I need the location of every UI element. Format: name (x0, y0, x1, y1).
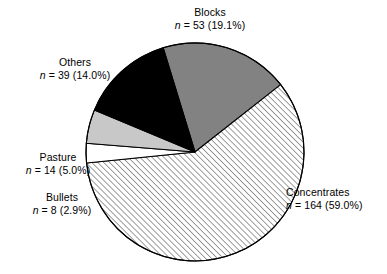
pie-label-bullets-name: Bullets (6, 191, 118, 204)
pie-label-blocks: Blocks n = 53 (19.1%) (148, 6, 272, 32)
pie-label-concentrates: Concentrates n = 164 (59.0%) (286, 186, 387, 212)
pie-label-concentrates-stat: n = 164 (59.0%) (286, 199, 387, 212)
pie-label-blocks-name: Blocks (148, 6, 272, 19)
pie-label-blocks-stat-rest: = 53 (19.1%) (181, 19, 246, 31)
pie-label-others-name: Others (16, 56, 134, 69)
pie-label-others: Others n = 39 (14.0%) (16, 56, 134, 82)
pie-label-others-stat: n = 39 (14.0%) (16, 69, 134, 82)
pie-label-bullets-stat-rest: = 8 (2.9%) (39, 204, 92, 216)
pie-label-pasture: Pasture n = 14 (5.0%) (2, 151, 114, 177)
pie-chart-figure: Blocks n = 53 (19.1%) Others n = 39 (14.… (0, 0, 387, 274)
pie-label-bullets: Bullets n = 8 (2.9%) (6, 191, 118, 217)
pie-label-pasture-stat: n = 14 (5.0%) (2, 164, 114, 177)
pie-label-concentrates-name: Concentrates (286, 186, 387, 199)
pie-label-concentrates-stat-rest: = 164 (59.0%) (292, 199, 363, 211)
pie-label-bullets-stat: n = 8 (2.9%) (6, 204, 118, 217)
pie-label-pasture-stat-rest: = 14 (5.0%) (32, 164, 91, 176)
pie-chart-canvas (0, 0, 387, 274)
pie-label-others-stat-rest: = 39 (14.0%) (46, 69, 111, 81)
pie-label-blocks-stat: n = 53 (19.1%) (148, 19, 272, 32)
pie-label-pasture-name: Pasture (2, 151, 114, 164)
